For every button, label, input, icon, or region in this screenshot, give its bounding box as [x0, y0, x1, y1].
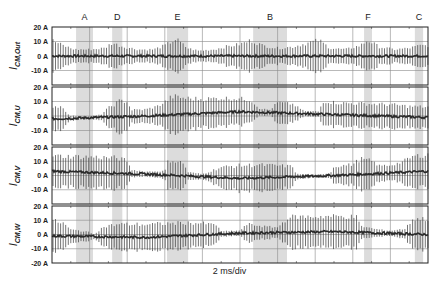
y-axis-label: ICM,U	[7, 96, 21, 136]
segment-label-e: E	[175, 12, 181, 22]
y-axis-label: ICM,V	[7, 156, 21, 196]
y-axis-label: ICM,Out	[7, 36, 21, 76]
y-tick-label: 20 A	[18, 144, 48, 151]
y-tick-label: 10 A	[18, 98, 48, 105]
y-tick-label: 0 A	[18, 231, 48, 238]
segment-label-f: F	[365, 12, 371, 22]
y-tick-label: -10 A	[18, 67, 48, 74]
segment-label-a: A	[82, 12, 88, 22]
y-tick-label: -10 A	[18, 245, 48, 252]
y-tick-label: -10 A	[18, 186, 48, 193]
y-tick-label: 20 A	[18, 203, 48, 210]
y-tick-label: 20 A	[18, 24, 48, 31]
y-tick-label: 10 A	[18, 158, 48, 165]
segment-label-c: C	[416, 12, 423, 22]
waveform-figure	[0, 0, 441, 291]
y-tick-label: 0 A	[18, 172, 48, 179]
y-tick-label: 0 A	[18, 113, 48, 120]
x-axis-label: 2 ms/div	[0, 266, 441, 276]
y-tick-label: 0 A	[18, 53, 48, 60]
y-tick-label: 10 A	[18, 38, 48, 45]
y-tick-label: -10 A	[18, 127, 48, 134]
y-axis-label: ICM,W	[7, 215, 21, 255]
segment-label-d: D	[114, 12, 121, 22]
segment-label-b: B	[267, 12, 273, 22]
y-tick-label: 10 A	[18, 217, 48, 224]
y-tick-label: 20 A	[18, 84, 48, 91]
